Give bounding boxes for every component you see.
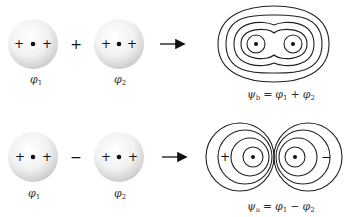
antibonding-equation: ψa=φ1−φ2	[247, 200, 315, 214]
plus-sign: +	[15, 150, 25, 164]
orbital-diagram: + + φ1 + + + φ2	[0, 0, 355, 217]
plus-sign: +	[42, 37, 52, 51]
nucleus-dot	[117, 155, 122, 160]
plus-sign: +	[101, 150, 111, 164]
atom-1-sphere: + +	[8, 19, 58, 69]
nucleus-dot	[31, 155, 36, 160]
atom-2-sphere: + +	[94, 19, 144, 69]
atom-2-label: φ2	[114, 73, 126, 87]
plus-sign: +	[127, 37, 137, 51]
plus-sign: +	[14, 37, 24, 51]
plus-sign: +	[42, 150, 52, 164]
nucleus-dot	[117, 42, 122, 47]
lobe-minus-sign: −	[321, 150, 331, 164]
bonding-equation: ψb=φ1+φ2	[247, 88, 315, 102]
bonding-contour-map	[218, 6, 329, 82]
atom-2-sphere: + +	[94, 132, 144, 182]
atom-1-label: φ1	[28, 187, 40, 201]
nucleus-dot	[31, 42, 36, 47]
atom-2-label: φ2	[114, 187, 126, 201]
minus-operator: −	[70, 149, 82, 165]
plus-sign: +	[101, 37, 111, 51]
plus-sign: +	[128, 150, 138, 164]
atom-1-sphere: + +	[8, 132, 58, 182]
atom-1-label: φ1	[30, 73, 42, 87]
antibonding-row: + + φ1 − + + φ2	[8, 123, 342, 214]
lobe-plus-sign: +	[220, 150, 230, 164]
plus-operator: +	[70, 36, 82, 52]
bonding-row: + + φ1 + + + φ2	[8, 6, 329, 102]
